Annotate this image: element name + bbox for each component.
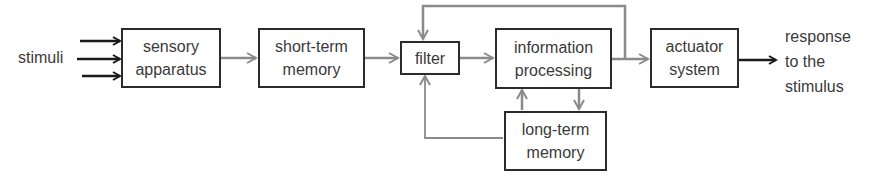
arrow-feedback-bottom (425, 76, 503, 138)
information-processing-node: information processing (495, 28, 612, 89)
long-term-memory-text: long-term memory (522, 118, 590, 164)
long-term-memory-node: long-term memory (504, 111, 607, 171)
information-processing-text: information processing (514, 36, 593, 82)
filter-text: filter (415, 47, 445, 70)
sensory-apparatus-node: sensory apparatus (121, 28, 221, 88)
filter-node: filter (400, 41, 460, 75)
response-label: response to the stimulus (785, 24, 851, 99)
sensory-apparatus-text: sensory apparatus (135, 35, 206, 81)
short-term-memory-node: short-term memory (258, 28, 365, 88)
short-term-memory-text: short-term memory (275, 35, 348, 81)
stimuli-label: stimuli (18, 45, 63, 70)
perception-flow-diagram: stimuli sensory apparatus short-term mem… (0, 0, 881, 188)
actuator-system-text: actuator system (666, 35, 724, 81)
actuator-system-node: actuator system (650, 28, 739, 88)
